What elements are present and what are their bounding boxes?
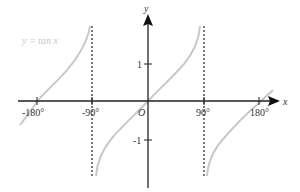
x-axis-label: x xyxy=(282,96,288,107)
tick-label-neg1: -1 xyxy=(133,135,141,146)
y-axis-label: y xyxy=(143,3,149,14)
tan-curve-right xyxy=(207,90,273,176)
tick-label-neg90: -90° xyxy=(82,107,99,118)
origin-label: O xyxy=(138,107,145,118)
tick-label-90: 90° xyxy=(196,107,210,118)
tick-label-neg180: -180° xyxy=(22,107,44,118)
tick-label-180: 180° xyxy=(250,107,269,118)
tick-label-1: 1 xyxy=(137,59,142,70)
tan-graph: y = tan x x y O -180° -90° 90° 180° 1 -1 xyxy=(0,0,300,192)
legend-label: y = tan x xyxy=(21,35,58,46)
